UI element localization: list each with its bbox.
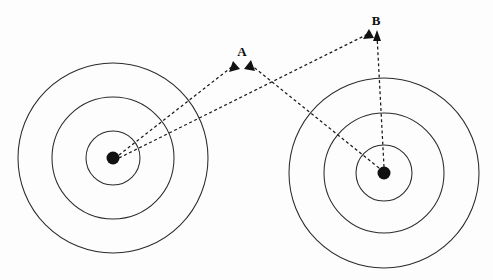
right-target-center-dot [378, 167, 391, 180]
targets-diagram: A B [0, 0, 493, 280]
figure-background [0, 0, 493, 280]
figure-canvas: A B [0, 0, 493, 280]
left-target-center-dot [107, 152, 120, 165]
point-label-a: A [237, 44, 247, 59]
point-label-b: B [372, 13, 381, 28]
